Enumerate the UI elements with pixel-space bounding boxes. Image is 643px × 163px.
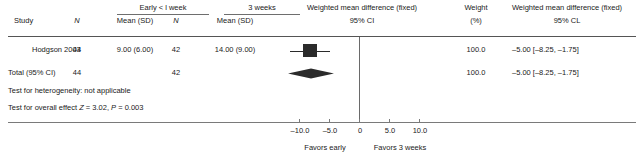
x-axis-tick-5: [389, 119, 390, 122]
total-row-effect-estimate: –5.00 [–8.25, –1.75]: [512, 68, 579, 78]
x-axis-line: [8, 122, 636, 123]
effect-header-subtitle: 95% CL: [554, 16, 581, 26]
group-header-three-weeks-rule: [224, 14, 300, 15]
study-row-n-early: 44: [73, 45, 81, 55]
weight-header-title: Weight: [464, 3, 487, 13]
test-overall-effect-z-value: = 3.02,: [84, 103, 111, 112]
x-axis-tick--10: [299, 119, 300, 122]
pooled-effect-diamond: [288, 66, 334, 81]
x-axis-tick--5: [329, 119, 330, 122]
forest-plot: Early < l week 3 weeks Weighted mean dif…: [0, 0, 643, 163]
test-heterogeneity-text: Test for heterogeneity: not applicable: [8, 86, 131, 96]
study-row-weight: 100.0: [467, 45, 486, 55]
study-row-n-three-weeks: 42: [172, 45, 180, 55]
effect-header-title: Weighted mean difference (fixed): [512, 3, 622, 13]
x-axis-label--5: –5.0: [323, 126, 338, 135]
x-axis-label--10: –10.0: [291, 126, 310, 135]
total-row-n-three-weeks: 42: [172, 68, 180, 78]
study-row-effect-estimate: –5.00 [–8.25, –1.75]: [512, 45, 579, 55]
x-axis-label-10: 10.0: [413, 126, 428, 135]
column-header-n-three-weeks: N: [173, 16, 178, 26]
x-axis-tick-10: [419, 119, 420, 122]
test-overall-effect-prefix: Test for overall effect: [8, 103, 79, 112]
graph-header-subtitle: 95% CI: [350, 16, 375, 26]
favors-left-label: Favors early: [304, 143, 345, 152]
group-header-early: Early < l week: [140, 3, 187, 13]
graph-header-title: Weighted mean difference (fixed): [307, 3, 417, 13]
study-row-mean-early: 9.00 (6.00): [117, 45, 153, 55]
group-header-three-weeks: 3 weeks: [248, 3, 276, 13]
column-header-mean-early: Mean (SD): [117, 16, 153, 26]
test-overall-effect-p-value: = 0.003: [116, 103, 143, 112]
header-separator-rule: [8, 36, 636, 37]
favors-right-label: Favors 3 weeks: [374, 143, 427, 152]
x-axis-tick-0: [359, 119, 360, 122]
study-row-mean-three-weeks: 14.00 (9.00): [215, 45, 255, 55]
column-header-n-early: N: [74, 16, 79, 26]
total-row-n-early: 44: [73, 68, 81, 78]
x-axis-label-0: 0: [358, 126, 362, 135]
total-row-label: Total (95% CI): [8, 68, 56, 78]
total-row-weight: 100.0: [467, 68, 486, 78]
x-axis-label-5: 5.0: [385, 126, 395, 135]
column-header-study: Study: [14, 16, 33, 26]
weight-header-subtitle: (%): [470, 16, 482, 26]
test-overall-effect-text: Test for overall effect Z = 3.02, P = 0.…: [8, 103, 143, 113]
null-effect-line: [359, 37, 360, 122]
study-effect-box: [303, 44, 317, 57]
group-header-early-rule: [117, 14, 209, 15]
column-header-mean-three-weeks: Mean (SD): [217, 16, 253, 26]
